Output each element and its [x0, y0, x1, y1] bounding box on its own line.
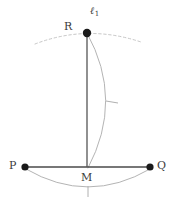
line-label-l1-glyph: ℓ — [90, 5, 94, 16]
point-label-R: R — [64, 21, 72, 32]
arc-R-to-M-right — [87, 33, 106, 168]
line-label-l1: ℓ1 — [90, 6, 99, 16]
point-label-M: M — [81, 172, 92, 183]
point-R — [83, 29, 91, 37]
point-Q — [146, 163, 153, 170]
point-label-P: P — [9, 160, 16, 171]
tick-on-arc-RM — [106, 101, 118, 103]
point-label-Q: Q — [157, 160, 166, 171]
line-label-l1-subscript: 1 — [95, 10, 99, 18]
geometry-diagram: R P Q M ℓ1 — [0, 0, 173, 203]
point-P — [21, 163, 28, 170]
